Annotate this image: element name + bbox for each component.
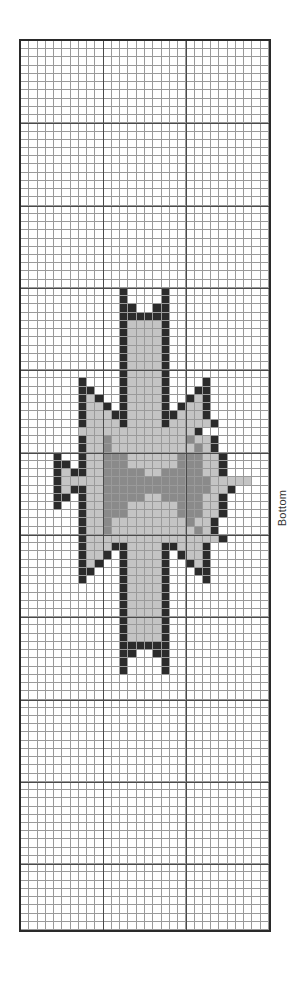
grid-cell [170,255,178,263]
grid-cell-light-gray [145,634,153,642]
grid-cell [261,461,269,469]
grid-cell [228,601,236,609]
grid-cell [62,271,70,279]
grid-cell [71,593,79,601]
grid-cell [79,790,87,798]
grid-cell [145,807,153,815]
grid-cell [29,239,37,247]
grid-cell [112,271,120,279]
grid-cell [38,535,46,543]
grid-cell-light-gray [145,428,153,436]
grid-cell [112,839,120,847]
grid-cell [228,881,236,889]
grid-cell [236,222,244,230]
grid-cell [145,757,153,765]
grid-cell [252,774,260,782]
grid-cell [162,716,170,724]
grid-cell [203,650,211,658]
grid-cell [252,140,260,148]
grid-cell [46,683,54,691]
grid-cell [219,173,227,181]
grid-cell [29,436,37,444]
grid-cell [104,280,112,288]
grid-cell [170,313,178,321]
grid-cell [29,848,37,856]
grid-cell [236,354,244,362]
grid-cell-black [120,296,128,304]
grid-cell [219,724,227,732]
grid-cell [128,749,136,757]
grid-cell [252,724,260,732]
grid-cell [79,856,87,864]
grid-cell-light-gray [128,403,136,411]
grid-cell [211,864,219,872]
grid-cell [29,617,37,625]
grid-cell [228,321,236,329]
grid-cell [54,749,62,757]
grid-cell [46,584,54,592]
grid-cell [236,765,244,773]
grid-cell [104,107,112,115]
grid-cell [120,765,128,773]
grid-cell [137,197,145,205]
grid-cell [219,411,227,419]
grid-cell [244,288,252,296]
grid-cell [112,551,120,559]
grid-cell-light-gray [145,337,153,345]
grid-cell [137,872,145,880]
grid-cell [21,667,29,675]
grid-cell [46,889,54,897]
grid-cell [128,864,136,872]
grid-cell [128,99,136,107]
grid-cell [38,156,46,164]
grid-cell [244,66,252,74]
grid-cell [71,74,79,82]
grid-cell [162,914,170,922]
grid-cell [71,617,79,625]
grid-cell [120,749,128,757]
grid-cell [261,757,269,765]
grid-cell-black [79,420,87,428]
grid-cell [128,189,136,197]
grid-cell [186,831,194,839]
grid-cell [71,757,79,765]
grid-cell [112,346,120,354]
grid-cell [195,897,203,905]
grid-cell [71,732,79,740]
grid-cell [261,214,269,222]
grid-cell [162,164,170,172]
grid-cell [153,148,161,156]
grid-cell [29,823,37,831]
grid-cell [137,296,145,304]
grid-cell [211,790,219,798]
grid-cell [71,461,79,469]
grid-cell [203,716,211,724]
grid-cell [54,872,62,880]
grid-cell-light-gray [120,436,128,444]
grid-cell [228,66,236,74]
grid-cell [120,57,128,65]
grid-cell-black [137,642,145,650]
grid-cell [211,609,219,617]
grid-cell [236,132,244,140]
grid-cell [170,239,178,247]
grid-cell [252,107,260,115]
grid-cell [162,66,170,74]
grid-cell [195,222,203,230]
grid-cell-light-gray [244,477,252,485]
grid-cell [252,477,260,485]
grid-cell [203,757,211,765]
grid-cell [21,831,29,839]
grid-cell-light-gray [203,518,211,526]
grid-cell [236,584,244,592]
grid-cell [87,601,95,609]
grid-cell [29,411,37,419]
grid-cell [236,280,244,288]
grid-cell [236,650,244,658]
grid-cell [244,230,252,238]
grid-cell-light-gray [186,444,194,452]
grid-cell-black [79,387,87,395]
grid-cell-light-gray [203,461,211,469]
grid-cell [261,510,269,518]
grid-cell [236,41,244,49]
